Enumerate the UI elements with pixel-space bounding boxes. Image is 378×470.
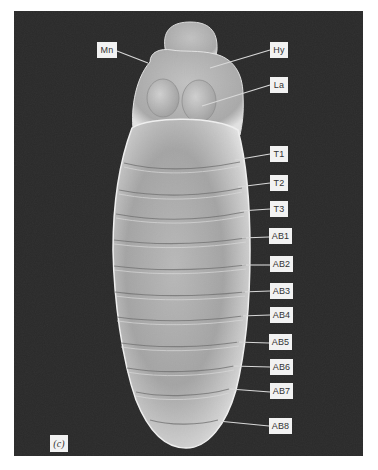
bottom-margin [0, 456, 378, 470]
label-ab7: AB7 [270, 383, 293, 399]
label-ab1: AB1 [269, 228, 292, 244]
label-mn: Mn [97, 42, 117, 58]
label-t1: T1 [270, 146, 288, 162]
label-t2: T2 [270, 175, 288, 191]
label-ab6: AB6 [270, 359, 293, 375]
label-ab8: AB8 [269, 418, 292, 434]
label-ab2: AB2 [270, 256, 293, 272]
label-t3: T3 [270, 201, 288, 217]
panel-label: (c) [50, 435, 68, 452]
larva-illustration [14, 11, 363, 456]
label-hy: Hy [270, 42, 288, 58]
label-ab4: AB4 [270, 307, 293, 323]
label-ab5: AB5 [269, 334, 292, 350]
sem-image-panel: Mn Hy La T1 T2 T3 AB1 AB2 AB3 AB4 AB5 AB… [14, 11, 363, 456]
label-ab3: AB3 [270, 283, 293, 299]
label-la: La [270, 77, 288, 93]
